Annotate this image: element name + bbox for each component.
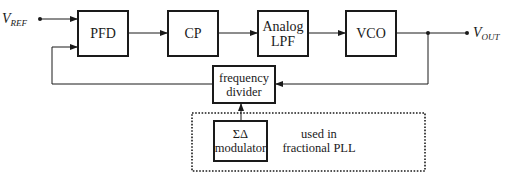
pfd-text: PFD [90,26,116,41]
vref-symbol: V [2,11,11,26]
vco-text: VCO [356,26,386,41]
vco-label: VCO [346,11,396,56]
cp-text: CP [184,26,201,41]
lpf-label: Analog LPF [258,11,308,56]
divider-text-line1: frequency [219,71,269,85]
output-junction-dot [426,31,430,35]
sdm-text-line2: modulator [215,141,266,155]
vout-symbol: V [473,25,482,40]
fractional-annotation: used in fractional PLL [274,121,364,161]
vref-label: VREF [2,11,38,31]
vout-terminal-dot [465,31,469,35]
pfd-label: PFD [78,11,128,56]
sdm-label: ΣΔ modulator [214,121,267,161]
cp-label: CP [168,11,218,56]
vref-terminal-dot [38,17,42,21]
lpf-text-line1: Analog [262,19,303,34]
vout-label: VOUT [473,25,505,45]
lpf-text-line2: LPF [271,34,295,49]
vref-subscript: REF [11,18,28,28]
sdm-text-line1: ΣΔ [233,127,248,141]
divider-label: frequency divider [213,66,275,103]
annotation-line2: fractional PLL [282,141,355,155]
divider-text-line2: divider [226,85,261,99]
vout-subscript: OUT [482,32,500,42]
annotation-line1: used in [301,127,337,141]
